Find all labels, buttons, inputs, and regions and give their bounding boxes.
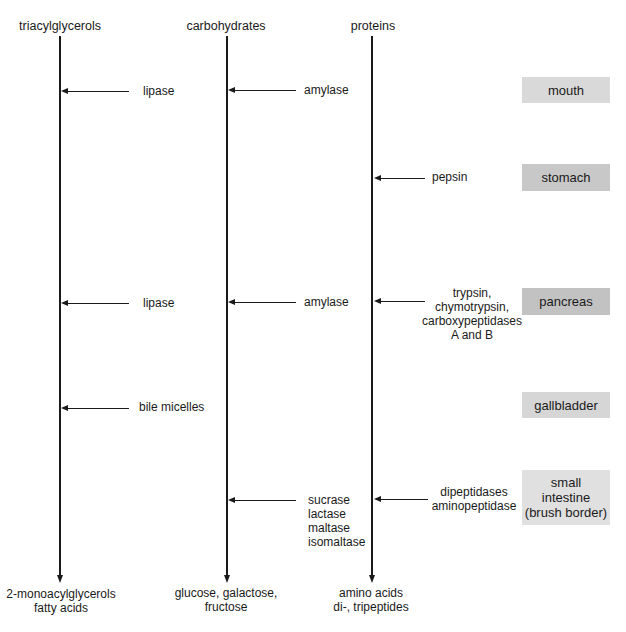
arrow-intestine-carbohydrase-line — [234, 500, 296, 501]
arrow-left-icon — [228, 87, 235, 93]
enzyme-label-bile-micelles: bile micelles — [139, 400, 204, 414]
organ-box-pancreas: pancreas — [522, 288, 610, 315]
organ-label-small-intestine: small intestine (brush border) — [525, 475, 607, 520]
arrow-gallbladder-bile-line — [67, 408, 129, 409]
header-carbohydrates: carbohydrates — [186, 19, 265, 33]
enzyme-label-brush-border-peptidases: dipeptidases aminopeptidase — [432, 485, 517, 513]
arrow-left-icon — [61, 300, 68, 306]
organ-label-pancreas: pancreas — [539, 294, 592, 309]
arrow-pancreas-protease-line — [380, 301, 425, 302]
enzyme-label-pancreas-lipase: lipase — [143, 296, 174, 310]
organ-box-small-intestine: small intestine (brush border) — [522, 470, 610, 525]
arrow-mouth-amylase-line — [234, 90, 296, 91]
arrow-pancreas-amylase-line — [234, 302, 296, 303]
arrow-pancreas-lipase-line — [67, 303, 129, 304]
enzyme-label-pancreas-amylase: amylase — [304, 295, 349, 309]
arrow-intestine-peptidase-line — [380, 499, 428, 500]
arrow-down-icon — [369, 575, 375, 583]
products-proteins: amino acids di-, tripeptides — [333, 586, 408, 614]
organ-box-gallbladder: gallbladder — [522, 392, 610, 418]
arrow-left-icon — [61, 405, 68, 411]
arrow-down-icon — [57, 575, 63, 583]
organ-box-mouth: mouth — [522, 77, 610, 103]
triacylglycerols-pathway-line — [59, 36, 61, 576]
carbohydrates-pathway-line — [226, 36, 228, 576]
arrow-left-icon — [374, 496, 381, 502]
organ-label-gallbladder: gallbladder — [534, 398, 598, 413]
arrow-down-icon — [224, 575, 230, 583]
organ-label-stomach: stomach — [541, 170, 590, 185]
products-carbohydrates: glucose, galactose, fructose — [175, 586, 278, 614]
enzyme-label-mouth-amylase: amylase — [304, 83, 349, 97]
arrow-stomach-pepsin-line — [380, 178, 425, 179]
arrow-left-icon — [61, 88, 68, 94]
proteins-pathway-line — [371, 36, 373, 576]
arrow-left-icon — [374, 298, 381, 304]
header-triacylglycerols: triacylglycerols — [19, 19, 101, 33]
organ-box-stomach: stomach — [522, 164, 610, 191]
arrow-left-icon — [374, 175, 381, 181]
arrow-left-icon — [228, 299, 235, 305]
header-proteins: proteins — [351, 19, 395, 33]
organ-label-mouth: mouth — [548, 83, 584, 98]
products-triacylglycerols: 2-monoacylglycerols fatty acids — [6, 587, 115, 615]
enzyme-label-pancreas-proteases: trypsin, chymotrypsin, carboxypeptidases… — [422, 286, 522, 342]
enzyme-label-mouth-lipase: lipase — [143, 84, 174, 98]
arrow-left-icon — [228, 497, 235, 503]
arrow-mouth-lipase-line — [67, 91, 129, 92]
enzyme-label-stomach-pepsin: pepsin — [432, 170, 467, 184]
enzyme-label-brush-border-carbohydrases: sucrase lactase maltase isomaltase — [308, 493, 365, 549]
